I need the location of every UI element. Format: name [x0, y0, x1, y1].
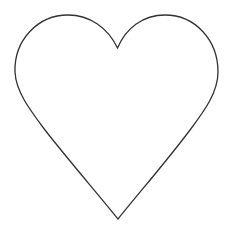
heart-canvas — [0, 0, 226, 236]
heart-outline — [15, 15, 218, 219]
heart-icon — [0, 0, 226, 236]
